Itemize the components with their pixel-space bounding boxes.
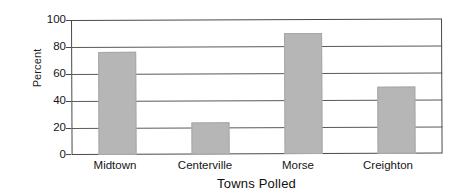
bar-creighton (377, 86, 415, 154)
bar-morse (284, 32, 323, 154)
category-label-centerville: Centerville (155, 159, 255, 171)
category-label-creighton: Creighton (338, 159, 438, 171)
y-tick-label-40: 40 (32, 95, 66, 106)
plot-contents (71, 18, 443, 155)
y-tick-label-80: 80 (32, 41, 66, 52)
bar-midtown (99, 52, 137, 155)
category-label-midtown: Midtown (65, 159, 165, 171)
y-axis-tick-labels: 100 80 60 40 20 0 (28, 0, 66, 196)
plot-area (71, 20, 442, 155)
bar-chart: Percent 100 80 60 40 20 0 Midtown Center… (0, 0, 460, 196)
y-tick-label-0: 0 (32, 149, 66, 160)
category-label-morse: Morse (248, 159, 348, 171)
y-tick-label-20: 20 (32, 122, 66, 133)
y-tick-label-60: 60 (32, 68, 66, 79)
y-tick-label-100: 100 (32, 14, 66, 25)
bar-centerville (192, 122, 230, 155)
x-axis-title: Towns Polled (71, 176, 442, 191)
